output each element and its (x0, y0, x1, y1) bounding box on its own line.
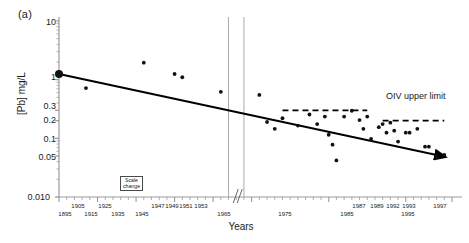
scale-change-leader (233, 189, 242, 203)
plot-canvas (0, 0, 469, 243)
scale-change-markers (229, 17, 244, 197)
axis-lines (59, 17, 462, 197)
data-points (55, 61, 446, 163)
x-tick-marks (59, 197, 452, 202)
trend-line (59, 74, 446, 157)
reference-lines (282, 110, 444, 120)
figure-panel: (a) [Pb] mg/L Years 10 1 0.3 0.2 0.1 0.0… (0, 0, 469, 243)
